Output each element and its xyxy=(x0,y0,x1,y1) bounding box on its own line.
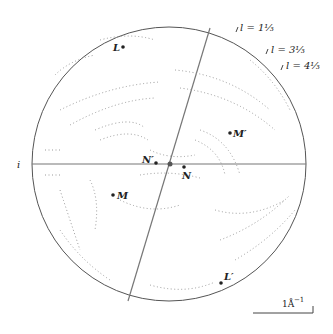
diffraction-diagram: L L′ M M′ N N′ i l = 1⅓ l = 3⅓ l = 4⅓ 1Å… xyxy=(0,0,333,334)
svg-text:l = 3⅓: l = 3⅓ xyxy=(271,44,305,55)
scale-bar: 1Å −1 xyxy=(253,296,313,313)
point-L-prime: L′ xyxy=(219,271,234,285)
svg-text:M: M xyxy=(116,190,129,201)
point-L: L xyxy=(112,42,125,53)
svg-text:L: L xyxy=(112,42,120,53)
axis-label-i: i xyxy=(17,159,20,170)
point-M-prime: M′ xyxy=(228,128,247,139)
svg-text:M′: M′ xyxy=(232,128,247,139)
layer-line-labels: l = 1⅓ l = 3⅓ l = 4⅓ xyxy=(236,22,320,71)
svg-text:1Å: 1Å xyxy=(282,298,295,309)
svg-text:−1: −1 xyxy=(294,296,304,304)
svg-text:N′: N′ xyxy=(141,154,154,165)
svg-text:l = 1⅓: l = 1⅓ xyxy=(240,22,274,33)
origin-marker xyxy=(168,162,173,167)
svg-text:L′: L′ xyxy=(223,271,234,282)
svg-text:N: N xyxy=(181,170,192,181)
point-N-prime: N′ xyxy=(141,154,158,165)
svg-text:l = 4⅓: l = 4⅓ xyxy=(286,60,320,71)
point-N: N xyxy=(181,165,192,181)
point-M: M xyxy=(111,190,129,201)
